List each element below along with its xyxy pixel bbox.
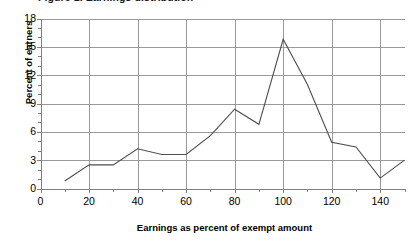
plot-area xyxy=(0,0,409,241)
vertical-gridlines xyxy=(90,19,381,189)
axis-lines xyxy=(41,19,405,190)
horizontal-gridlines xyxy=(41,20,405,190)
data-series-line xyxy=(65,39,405,181)
line-chart-figure: Figure 1. Earnings distribution Percent … xyxy=(0,0,409,241)
y-axis-minor-ticks xyxy=(37,20,41,190)
